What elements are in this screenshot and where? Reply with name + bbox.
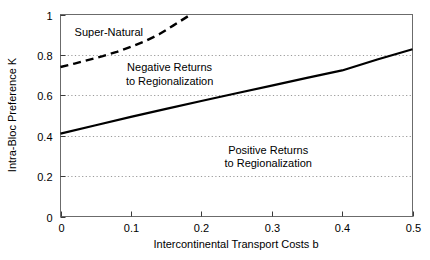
annotations-group: Super-NaturalNegative Returnsto Regional… [75, 26, 312, 170]
x-axis-tick-label: 0.1 [124, 222, 139, 234]
region-label: to Regionalization [126, 75, 213, 87]
series-line [61, 15, 191, 68]
chart-svg: 00.10.20.30.40.5 00.20.40.60.81 Super-Na… [0, 0, 430, 260]
y-axis-tick-label: 0.6 [37, 90, 52, 102]
plot-area-border [61, 15, 413, 217]
region-label: Negative Returns [127, 61, 212, 73]
region-label: Super-Natural [75, 26, 143, 38]
region-label: Positive Returns [228, 144, 309, 156]
y-axis-title: Intra-Bloc Preference K [6, 57, 18, 172]
y-axis-tick-label: 1 [46, 10, 52, 22]
y-axis-tick-label: 0 [46, 212, 52, 224]
y-axis-tick-labels-group: 00.20.40.60.81 [37, 10, 52, 224]
y-axis-tick-label: 0.8 [37, 50, 52, 62]
x-axis-tick-label: 0.3 [265, 222, 280, 234]
x-axis-tick-labels-group: 00.10.20.30.40.5 [58, 222, 421, 234]
x-axis-tick-label: 0.4 [335, 222, 350, 234]
y-axis-tick-label: 0.2 [37, 171, 52, 183]
x-axis-ticks-group [62, 212, 414, 217]
y-axis-tick-label: 0.4 [37, 131, 52, 143]
y-axis-ticks-group [61, 16, 66, 218]
x-axis-title: Intercontinental Transport Costs b [153, 238, 318, 250]
x-axis-tick-label: 0.2 [194, 222, 209, 234]
series-line [61, 49, 413, 133]
chart-figure: 00.10.20.30.40.5 00.20.40.60.81 Super-Na… [0, 0, 430, 260]
region-label: to Regionalization [224, 157, 311, 169]
x-axis-tick-label: 0.5 [406, 222, 421, 234]
x-axis-tick-label: 0 [58, 222, 64, 234]
